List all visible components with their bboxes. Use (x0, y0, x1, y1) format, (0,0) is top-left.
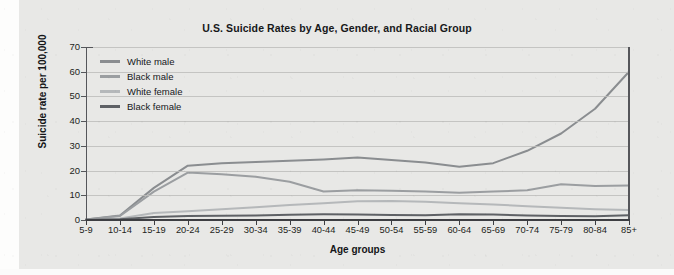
y-axis-tick-label: 40 (54, 116, 80, 126)
legend-item: Black male (100, 69, 182, 84)
grid-line (86, 195, 629, 196)
chart-legend: White maleBlack maleWhite femaleBlack fe… (100, 54, 182, 114)
x-axis-tick-label: 60-64 (447, 226, 471, 235)
legend-item: White male (100, 54, 182, 69)
x-axis-tick-labels: 5-910-1415-1920-2425-2930-3435-3940-4445… (86, 226, 629, 240)
legend-color-swatch (100, 60, 120, 63)
legend-color-swatch (100, 105, 120, 108)
y-axis-tick-label: 20 (54, 166, 80, 176)
x-axis-tick-label: 25-29 (210, 226, 234, 235)
y-axis-top-cap (86, 47, 93, 48)
x-axis-tick-label: 70-74 (515, 226, 539, 235)
x-axis-line (86, 219, 630, 221)
legend-label: White male (127, 57, 175, 67)
x-axis-title: Age groups (86, 244, 629, 255)
x-axis-tick-label: 20-24 (176, 226, 200, 235)
x-axis-tick-label: 45-49 (346, 226, 370, 235)
x-axis-tick-label: 65-69 (481, 226, 505, 235)
y-axis-tick-label: 60 (54, 67, 80, 77)
legend-item: White female (100, 84, 182, 99)
legend-color-swatch (100, 90, 120, 93)
x-axis-tick-label: 50-54 (380, 226, 404, 235)
y-axis-line (86, 47, 87, 220)
grid-line (86, 171, 629, 172)
grid-line (86, 146, 629, 147)
y-axis-tick-label: 70 (54, 42, 80, 52)
x-axis-tick-label: 80-84 (583, 226, 607, 235)
y-axis-tick-labels: 010203040506070 (52, 47, 80, 220)
legend-item: Black female (100, 99, 182, 114)
x-axis-tick-label: 5-9 (79, 226, 92, 235)
x-axis-tick-label: 30-34 (244, 226, 268, 235)
x-axis-tick-label: 15-19 (142, 226, 166, 235)
page-bottom-margin (0, 269, 674, 275)
grid-line (86, 121, 629, 122)
y-axis-tick-label: 0 (54, 215, 80, 225)
legend-color-swatch (100, 75, 120, 78)
grid-line (86, 47, 629, 48)
page-left-margin (0, 0, 19, 275)
x-axis-tick-label: 40-44 (312, 226, 336, 235)
x-axis-tick-label: 35-39 (278, 226, 302, 235)
plot-right-border (628, 47, 630, 220)
y-axis-tick-label: 50 (54, 91, 80, 101)
x-axis-tick-label: 10-14 (108, 226, 132, 235)
legend-label: Black male (127, 72, 173, 82)
chart-title: U.S. Suicide Rates by Age, Gender, and R… (0, 22, 674, 34)
x-axis-tick-label: 55-59 (413, 226, 437, 235)
legend-label: Black female (127, 102, 181, 112)
y-axis-title: Suicide rate per 100,000 (37, 12, 48, 172)
x-axis-tick-label: 75-79 (549, 226, 573, 235)
x-axis-tick-label: 85+ (621, 226, 637, 235)
legend-label: White female (127, 87, 182, 97)
y-axis-tick-label: 10 (54, 190, 80, 200)
chart-page: U.S. Suicide Rates by Age, Gender, and R… (0, 0, 674, 275)
y-axis-tick-label: 30 (54, 141, 80, 151)
